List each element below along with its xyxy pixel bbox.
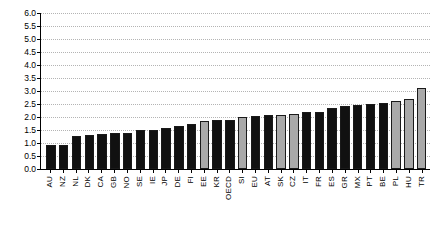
bar-dk[interactable] (85, 135, 94, 169)
bar-kr[interactable] (212, 120, 221, 169)
y-axis-tick-label: 6.0 (24, 9, 36, 18)
bar-slot (415, 13, 428, 169)
bar-se[interactable] (136, 130, 145, 169)
plot-area: 6.05.55.04.54.03.53.02.52.01.51.00.50.0 (40, 13, 430, 170)
bar-tr[interactable] (417, 88, 426, 169)
y-axis-tick-label: 1.5 (24, 126, 36, 135)
x-axis-label-ee: EE (200, 176, 208, 187)
bar-de[interactable] (174, 126, 183, 169)
x-axis-slot: OECD (223, 173, 236, 223)
y-axis-tick-label: 4.0 (24, 61, 36, 70)
bar-hu[interactable] (404, 99, 413, 169)
bar-be[interactable] (379, 103, 388, 169)
bar-chart: 6.05.55.04.54.03.53.02.52.01.51.00.50.0 … (0, 0, 436, 225)
bar-fi[interactable] (187, 124, 196, 169)
x-axis-label-fi: FI (187, 176, 195, 184)
x-axis-label-de: DE (174, 176, 182, 188)
x-axis-slot: GB (108, 173, 121, 223)
bar-slot (83, 13, 96, 169)
bar-slot (339, 13, 352, 169)
bar-sk[interactable] (276, 115, 285, 169)
y-axis-tick-label: 0.5 (24, 152, 36, 161)
y-axis-tick (37, 104, 41, 105)
bar-slot (300, 13, 313, 169)
x-axis-tick (242, 170, 243, 173)
x-axis-tick (409, 170, 410, 173)
x-axis-tick (319, 170, 320, 173)
bar-cz[interactable] (289, 114, 298, 169)
x-axis-tick (370, 170, 371, 173)
x-axis-label-nz: NZ (59, 176, 67, 187)
x-axis-label-gr: GR (341, 176, 349, 188)
bar-slot (313, 13, 326, 169)
bar-slot (249, 13, 262, 169)
x-axis-tick (268, 170, 269, 173)
x-axis-slot: GR (338, 173, 351, 223)
bar-no[interactable] (123, 133, 132, 169)
bar-slot (185, 13, 198, 169)
x-axis-slot: AT (261, 173, 274, 223)
x-axis-label-at: AT (264, 176, 272, 186)
x-axis-slot: BE (377, 173, 390, 223)
bar-jp[interactable] (161, 128, 170, 169)
x-axis-label-be: BE (379, 176, 387, 187)
x-axis-tick (76, 170, 77, 173)
bar-pl[interactable] (391, 101, 400, 169)
x-axis-slot: NL (69, 173, 82, 223)
bar-slot (45, 13, 58, 169)
y-axis-tick-label: 2.0 (24, 113, 36, 122)
bar-ca[interactable] (97, 134, 106, 169)
x-axis-category-labels: AUNZNLDKCAGBNOSEIEJPDEFIEEKROECDSIEUATSK… (42, 173, 430, 223)
x-axis-label-hu: HU (405, 176, 413, 188)
x-axis-tick (127, 170, 128, 173)
x-axis-slot: SK (274, 173, 287, 223)
x-axis-label-au: AU (46, 176, 54, 188)
x-axis-tick (140, 170, 141, 173)
y-axis-tick (37, 117, 41, 118)
x-axis-tick (63, 170, 64, 173)
bar-pt[interactable] (366, 104, 375, 169)
x-axis-label-nl: NL (72, 176, 80, 187)
y-axis-tick (37, 143, 41, 144)
y-axis-tick (37, 156, 41, 157)
x-axis-slot: EU (249, 173, 262, 223)
bar-eu[interactable] (251, 116, 260, 169)
x-axis-tick (332, 170, 333, 173)
x-axis-slot: IT (300, 173, 313, 223)
x-axis-label-gb: GB (110, 176, 118, 188)
y-axis-tick-label: 2.5 (24, 100, 36, 109)
bar-ie[interactable] (149, 130, 158, 170)
bar-nz[interactable] (59, 145, 68, 169)
bar-si[interactable] (238, 117, 247, 169)
bar-gr[interactable] (340, 106, 349, 169)
x-axis-label-oecd: OECD (225, 176, 233, 200)
bar-slot (402, 13, 415, 169)
x-axis-slot: NZ (56, 173, 69, 223)
bar-slot (70, 13, 83, 169)
bar-es[interactable] (327, 108, 336, 169)
bar-ee[interactable] (200, 121, 209, 169)
x-axis-tick (293, 170, 294, 173)
bar-fr[interactable] (315, 112, 324, 169)
bar-nl[interactable] (72, 136, 81, 169)
bar-mx[interactable] (353, 105, 362, 169)
bar-slot (351, 13, 364, 169)
bar-au[interactable] (46, 145, 55, 169)
x-axis-tick (178, 170, 179, 173)
x-axis-tick (281, 170, 282, 173)
x-axis-label-ca: CA (97, 176, 105, 188)
x-axis-tick (153, 170, 154, 173)
x-axis-slot: NO (120, 173, 133, 223)
bar-at[interactable] (264, 115, 273, 169)
bar-slot (121, 13, 134, 169)
x-axis-label-se: SE (136, 176, 144, 187)
x-axis-slot: FR (313, 173, 326, 223)
bar-it[interactable] (302, 112, 311, 169)
bar-slot (147, 13, 160, 169)
bar-gb[interactable] (110, 133, 119, 169)
y-axis-tick-label: 0.0 (24, 165, 36, 174)
x-axis-tick (217, 170, 218, 173)
bar-oecd[interactable] (225, 120, 234, 169)
x-axis-tick (306, 170, 307, 173)
x-axis-tick (165, 170, 166, 173)
